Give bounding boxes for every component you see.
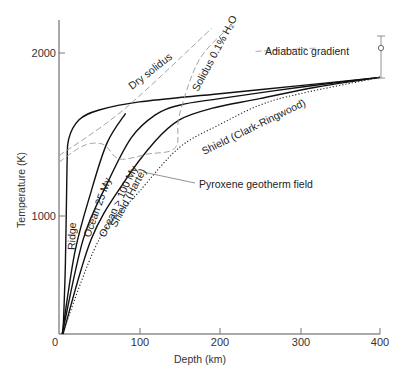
curve-dry-solidus <box>59 29 212 156</box>
geotherm-chart: 1000 2000 0 100 200 300 400 Depth (km) T… <box>0 0 406 381</box>
label-pyroxene-field: Pyroxene geotherm field <box>199 178 313 190</box>
curve-solidus-0-1-h2o <box>59 25 232 162</box>
x-tick-label-300: 300 <box>292 336 310 348</box>
x-tick-label-100: 100 <box>131 336 149 348</box>
x-tick-label-400: 400 <box>371 336 389 348</box>
x-axis-title: Depth (km) <box>174 353 226 365</box>
label-wet-solidus: Solidus 0.1% H₂O <box>189 13 239 93</box>
y-tick-label-1000: 1000 <box>32 210 56 222</box>
label-adiabatic-gradient: Adiabatic gradient <box>265 45 349 57</box>
y-axis-title: Temperature (K) <box>15 152 27 228</box>
label-ridge: Ridge <box>65 222 78 250</box>
y-tick-label-2000: 2000 <box>32 47 56 59</box>
end-point-marker <box>378 45 383 50</box>
x-tick-label-200: 200 <box>211 336 229 348</box>
x-tick-label-0: 0 <box>52 336 58 348</box>
